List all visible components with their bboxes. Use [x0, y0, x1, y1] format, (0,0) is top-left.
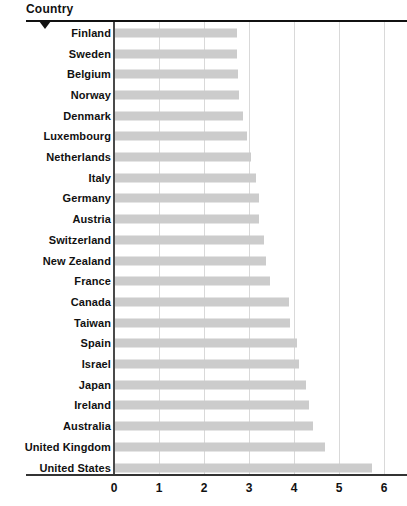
chart-row[interactable]: Australia [0, 416, 407, 437]
category-label: New Zealand [43, 255, 111, 267]
bar[interactable] [115, 277, 270, 286]
category-label: Australia [63, 420, 111, 432]
category-label: Belgium [67, 68, 111, 80]
bar-rows: FinlandSwedenBelgiumNorwayDenmarkLuxembo… [0, 22, 407, 474]
chart-row[interactable]: Taiwan [0, 312, 407, 333]
bar[interactable] [115, 401, 309, 410]
chart-row[interactable]: Luxembourg [0, 126, 407, 147]
category-label: Sweden [69, 48, 111, 60]
chart-row[interactable]: Japan [0, 374, 407, 395]
chart-row[interactable]: Canada [0, 292, 407, 313]
category-label: Japan [79, 379, 111, 391]
category-label: Switzerland [49, 234, 111, 246]
category-label: Netherlands [46, 151, 111, 163]
chart-row[interactable]: France [0, 271, 407, 292]
x-tick-label: 5 [336, 481, 343, 495]
bar-chart: Country FinlandSwedenBelgiumNorwayDenmar… [0, 0, 407, 506]
chart-row[interactable]: United Kingdom [0, 437, 407, 458]
bar[interactable] [115, 49, 237, 58]
bar[interactable] [115, 194, 259, 203]
category-label: Denmark [63, 110, 111, 122]
bar[interactable] [115, 132, 247, 141]
bar[interactable] [115, 153, 251, 162]
chart-row[interactable]: New Zealand [0, 250, 407, 271]
chart-row[interactable]: Norway [0, 85, 407, 106]
x-tick-label: 4 [291, 481, 298, 495]
chart-row[interactable]: Switzerland [0, 230, 407, 251]
chart-row[interactable]: Israel [0, 354, 407, 375]
bar[interactable] [115, 297, 289, 306]
category-label: Israel [82, 358, 111, 370]
chart-row[interactable]: Spain [0, 333, 407, 354]
plot-area: FinlandSwedenBelgiumNorwayDenmarkLuxembo… [0, 22, 407, 474]
chart-row[interactable]: Netherlands [0, 147, 407, 168]
category-label: Finland [71, 27, 111, 39]
bar[interactable] [115, 28, 237, 37]
category-label: Italy [88, 172, 111, 184]
bar[interactable] [115, 463, 372, 472]
chart-row[interactable]: Ireland [0, 395, 407, 416]
chart-row[interactable]: Germany [0, 188, 407, 209]
category-label: Austria [72, 213, 111, 225]
chart-row[interactable]: Denmark [0, 105, 407, 126]
category-label: Norway [71, 89, 111, 101]
bar[interactable] [115, 422, 313, 431]
chart-row[interactable]: Austria [0, 209, 407, 230]
category-label: Spain [81, 337, 111, 349]
bar[interactable] [115, 235, 264, 244]
x-tick-label: 6 [381, 481, 388, 495]
x-tick-label: 3 [246, 481, 253, 495]
x-axis-line [26, 474, 407, 476]
bar[interactable] [115, 70, 238, 79]
category-label: Ireland [74, 399, 111, 411]
bar[interactable] [115, 111, 243, 120]
chart-row[interactable]: Italy [0, 167, 407, 188]
bar[interactable] [115, 215, 259, 224]
chart-header: Country [0, 0, 407, 22]
column-header-country[interactable]: Country [26, 2, 73, 16]
category-label: Taiwan [74, 317, 111, 329]
bar[interactable] [115, 90, 239, 99]
bar[interactable] [115, 380, 306, 389]
category-label: Canada [71, 296, 111, 308]
x-tick-label: 1 [156, 481, 163, 495]
x-tick-label: 0 [111, 481, 118, 495]
bar[interactable] [115, 442, 325, 451]
category-label: United Kingdom [25, 441, 111, 453]
y-axis-line [113, 22, 115, 474]
category-label: France [74, 275, 111, 287]
bar[interactable] [115, 360, 299, 369]
x-tick-label: 2 [201, 481, 208, 495]
category-label: Luxembourg [43, 130, 111, 142]
bar[interactable] [115, 173, 256, 182]
chart-row[interactable]: Finland [0, 23, 407, 44]
bar[interactable] [115, 256, 266, 265]
chart-row[interactable]: Sweden [0, 43, 407, 64]
bar[interactable] [115, 339, 297, 348]
category-label: United States [39, 462, 111, 474]
chart-row[interactable]: Belgium [0, 64, 407, 85]
category-label: Germany [63, 192, 111, 204]
bar[interactable] [115, 318, 290, 327]
